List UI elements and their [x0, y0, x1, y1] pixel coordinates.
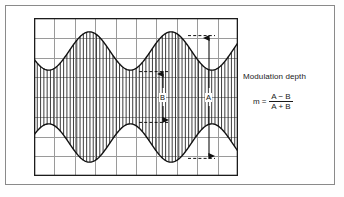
formula-lhs: m	[253, 97, 260, 106]
formula-numerator: A − B	[269, 92, 292, 101]
formula-denominator: A + B	[269, 101, 292, 111]
scope-svg	[34, 18, 238, 176]
modulation-depth-figure: B A Modulation depth m = A − B A + B	[0, 0, 344, 197]
oscilloscope-display	[34, 18, 238, 176]
modulation-depth-formula: m = A − B A + B	[253, 92, 341, 111]
formula-fraction: A − B A + B	[269, 92, 292, 111]
formula-equals: =	[262, 97, 267, 106]
modulation-depth-title: Modulation depth	[243, 72, 341, 81]
modulation-depth-caption: Modulation depth m = A − B A + B	[243, 72, 341, 111]
